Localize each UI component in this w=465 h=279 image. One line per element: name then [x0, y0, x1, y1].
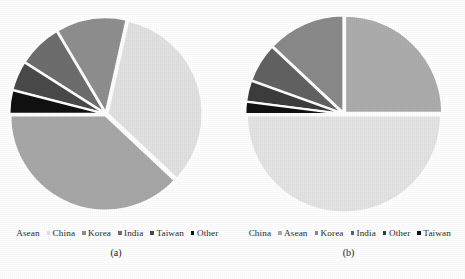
legend-label: China [53, 227, 75, 239]
legend-entry-taiwan[interactable]: Taiwan [417, 227, 451, 239]
legend-label: India [124, 227, 143, 239]
subcaption-a: (a) [0, 247, 232, 258]
subcaption-b: (b) [232, 247, 465, 258]
legend-b: ChinaAseanKoreaIndiaOtherTaiwan [232, 227, 465, 239]
legend-label: Asean [284, 227, 307, 239]
pie-slice-asean[interactable] [345, 16, 442, 113]
legend-swatch-icon [315, 231, 319, 235]
legend-entry-china[interactable]: China [246, 227, 271, 239]
legend-label: Other [389, 227, 410, 239]
legend-swatch-icon [351, 231, 355, 235]
legend-swatch-icon [383, 231, 387, 235]
legend-entry-india[interactable]: India [351, 227, 376, 239]
legend-label: Korea [321, 227, 344, 239]
legend-swatch-icon [278, 231, 282, 235]
legend-entry-taiwan[interactable]: Taiwan [150, 227, 184, 239]
legend-swatch-icon [82, 231, 86, 235]
legend-entry-asean[interactable]: Asean [14, 227, 40, 239]
legend-entry-china[interactable]: China [47, 227, 75, 239]
legend-label: Taiwan [156, 227, 184, 239]
legend-swatch-icon [191, 231, 195, 235]
figure-two-pie-charts: AseanChinaKoreaIndiaTaiwanOther (a) Chin… [0, 0, 465, 279]
legend-swatch-icon [417, 231, 421, 235]
legend-label: China [249, 227, 271, 239]
legend-label: India [357, 227, 376, 239]
legend-entry-other[interactable]: Other [383, 227, 410, 239]
legend-swatch-icon [47, 231, 51, 235]
legend-entry-asean[interactable]: Asean [278, 227, 307, 239]
legend-a: AseanChinaKoreaIndiaTaiwanOther [0, 227, 232, 239]
legend-entry-india[interactable]: India [118, 227, 143, 239]
legend-swatch-icon [118, 231, 122, 235]
legend-label: Asean [16, 227, 39, 239]
panel-a: AseanChinaKoreaIndiaTaiwanOther (a) [0, 0, 232, 279]
panel-b: ChinaAseanKoreaIndiaOtherTaiwan (b) [232, 0, 465, 279]
legend-label: Other [197, 227, 218, 239]
legend-label: Korea [88, 227, 111, 239]
legend-entry-korea[interactable]: Korea [82, 227, 111, 239]
pie-svg-a [0, 0, 232, 215]
pie-slice-china[interactable] [247, 116, 441, 213]
legend-entry-korea[interactable]: Korea [315, 227, 344, 239]
pie-svg-b [232, 0, 465, 215]
legend-swatch-icon [150, 231, 154, 235]
legend-label: Taiwan [423, 227, 451, 239]
pie-chart-a [0, 0, 232, 215]
legend-entry-other[interactable]: Other [191, 227, 218, 239]
pie-chart-b [232, 0, 464, 215]
